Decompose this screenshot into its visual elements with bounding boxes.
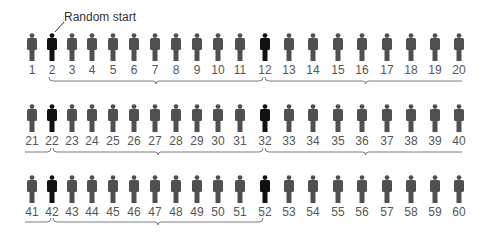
interval-bracket-continuation [25,218,51,222]
interval-bracket [53,218,263,225]
annotation-overlay [0,0,490,234]
interval-bracket-continuation [25,148,51,152]
interval-brackets [25,77,462,225]
interval-bracket [49,77,263,84]
interval-bracket [53,148,263,155]
random-start-pointer [55,22,64,32]
interval-bracket [265,77,462,84]
interval-bracket [265,148,462,155]
